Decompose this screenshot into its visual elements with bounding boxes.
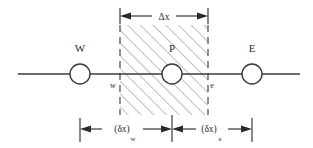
- bottom-right-dim-label: (δx): [201, 124, 217, 135]
- bottom-left-dim-label: (δx): [114, 124, 130, 135]
- node-label-W: W: [75, 42, 86, 54]
- bottom-right-dim-subscript: e: [218, 135, 221, 143]
- bottom-left-dim-subscript: w: [130, 135, 136, 143]
- bottom-right-dim-arrowhead-right: [241, 125, 252, 132]
- bottom-left-dim-arrowhead-right: [161, 125, 172, 132]
- control-volume-diagram: W P E w e Δx (δx) w (δx): [0, 0, 313, 148]
- face-label-e: e: [210, 81, 214, 90]
- bottom-left-dim-arrowhead-left: [80, 125, 91, 132]
- top-dim-arrowhead-left: [120, 12, 131, 19]
- node-label-E: E: [249, 42, 256, 54]
- node-circle-W: [70, 64, 90, 84]
- face-label-w: w: [110, 81, 116, 90]
- diagram-canvas: W P E w e Δx (δx) w (δx): [0, 0, 313, 148]
- node-label-P: P: [169, 42, 175, 54]
- bottom-right-dim-arrowhead-left: [172, 125, 183, 132]
- top-dim-arrowhead-right: [197, 12, 208, 19]
- node-circle-E: [242, 64, 262, 84]
- top-dim-label-delta-x: Δx: [159, 12, 170, 22]
- node-circle-P: [162, 64, 182, 84]
